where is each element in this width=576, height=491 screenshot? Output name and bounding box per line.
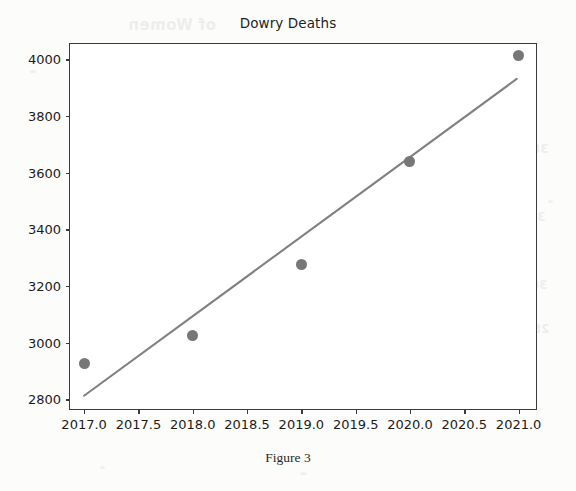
x-axis-tick xyxy=(193,409,194,414)
x-axis-tick-label: 2021.0 xyxy=(496,417,542,432)
x-axis-tick-label: 2018.0 xyxy=(170,417,216,432)
y-axis-tick-label: 3200 xyxy=(28,279,61,294)
x-axis-tick-label: 2020.0 xyxy=(387,417,433,432)
data-point-marker xyxy=(513,50,524,61)
x-axis-tick xyxy=(356,409,357,414)
y-axis-tick xyxy=(66,399,71,400)
y-axis-tick-label: 2800 xyxy=(28,392,61,407)
x-axis-tick-label: 2018.5 xyxy=(224,417,270,432)
y-axis-tick xyxy=(66,343,71,344)
y-axis-tick-label: 3400 xyxy=(28,222,61,237)
x-axis-tick xyxy=(247,409,248,414)
figure-caption: Figure 3 xyxy=(0,450,576,466)
plot-area xyxy=(70,44,536,409)
plot-frame: 28003000320034003600380040002017.02017.5… xyxy=(69,43,537,410)
x-axis-tick xyxy=(84,409,85,414)
y-axis-tick xyxy=(66,59,71,60)
figure-dowry-deaths: Dowry Deaths 280030003200340036003800400… xyxy=(0,0,576,491)
x-axis-tick xyxy=(464,409,465,414)
y-axis-tick xyxy=(66,229,71,230)
x-axis-tick xyxy=(301,409,302,414)
y-axis-tick xyxy=(66,173,71,174)
x-axis-tick-label: 2017.5 xyxy=(116,417,162,432)
y-axis-tick xyxy=(66,116,71,117)
x-axis-tick xyxy=(519,409,520,414)
y-axis-tick-label: 3000 xyxy=(28,335,61,350)
x-axis-tick-label: 2019.5 xyxy=(333,417,379,432)
y-axis-tick-label: 4000 xyxy=(28,52,61,67)
x-axis-tick xyxy=(138,409,139,414)
trend-line xyxy=(70,44,536,409)
y-axis-tick xyxy=(66,286,71,287)
x-axis-tick-label: 2020.5 xyxy=(442,417,488,432)
x-axis-tick xyxy=(410,409,411,414)
x-axis-tick-label: 2017.0 xyxy=(61,417,107,432)
x-axis-tick-label: 2019.0 xyxy=(279,417,325,432)
y-axis-tick-label: 3800 xyxy=(28,108,61,123)
chart-title: Dowry Deaths xyxy=(0,15,576,31)
y-axis-tick-label: 3600 xyxy=(28,165,61,180)
